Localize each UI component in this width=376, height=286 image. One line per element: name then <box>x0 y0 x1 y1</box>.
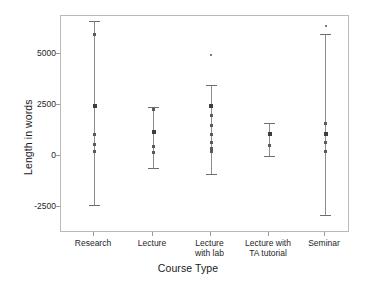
error-bar-cap-lower <box>148 168 159 169</box>
error-bar-cap-lower <box>206 174 217 175</box>
x-tick-mark <box>93 232 94 236</box>
y-tick-label: 5000 <box>37 48 56 58</box>
error-bar-cap-lower <box>264 156 275 157</box>
data-point <box>152 151 155 154</box>
error-bar-line <box>211 85 212 175</box>
data-point <box>93 33 96 36</box>
chart-figure: Length in words Course Type 500025000-25… <box>0 0 376 286</box>
mean-marker <box>209 104 213 108</box>
error-bar-cap-lower <box>320 215 331 216</box>
error-bar-cap-upper <box>264 123 275 124</box>
y-tick-label: 2500 <box>37 99 56 109</box>
data-point <box>210 133 213 136</box>
data-point <box>268 144 271 147</box>
mean-marker <box>268 132 272 136</box>
x-tick-mark <box>152 232 153 236</box>
data-point <box>93 133 96 136</box>
data-point <box>324 122 327 125</box>
x-tick-mark <box>210 232 211 236</box>
outlier-point <box>210 54 212 56</box>
x-tick-mark <box>324 232 325 236</box>
x-tick-label: Seminar <box>279 238 369 248</box>
error-bar-cap-upper <box>89 21 100 22</box>
data-point <box>93 150 96 153</box>
mean-marker <box>152 130 156 134</box>
error-bar-cap-upper <box>320 34 331 35</box>
error-bar-line <box>269 123 270 156</box>
data-point <box>152 145 155 148</box>
data-point <box>324 141 327 144</box>
error-bar-cap-upper <box>206 85 217 86</box>
mean-marker <box>93 104 97 108</box>
data-point <box>93 143 96 146</box>
error-bar-line <box>153 107 154 168</box>
data-point <box>210 150 213 153</box>
data-point <box>324 150 327 153</box>
outlier-point <box>325 25 327 27</box>
y-tick-label: -2500 <box>34 201 56 211</box>
plot-area <box>60 15 349 232</box>
x-axis-title: Course Type <box>0 262 376 274</box>
error-bar-line <box>94 21 95 205</box>
x-tick-mark <box>268 232 269 236</box>
data-point <box>210 114 213 117</box>
data-point <box>152 108 155 111</box>
mean-marker <box>324 132 328 136</box>
data-point <box>210 124 213 127</box>
error-bar-cap-lower <box>89 205 100 206</box>
data-point <box>210 141 213 144</box>
